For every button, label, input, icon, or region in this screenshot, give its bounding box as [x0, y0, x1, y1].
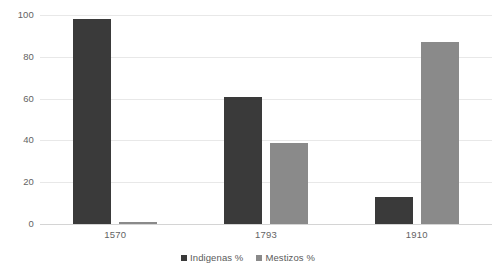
bar	[270, 143, 308, 225]
y-tick-label: 60	[0, 94, 34, 104]
legend-item[interactable]: Indigenas %	[181, 252, 243, 263]
x-tick-label: 1570	[85, 229, 145, 241]
axis-baseline	[40, 224, 492, 225]
y-tick-label: 80	[0, 52, 34, 62]
bar	[73, 19, 111, 224]
x-tick-label: 1910	[387, 229, 447, 241]
legend-swatch-icon	[256, 255, 262, 261]
plot-area	[40, 15, 492, 224]
bar	[421, 42, 459, 224]
bar-group	[73, 15, 157, 224]
bar-group	[224, 15, 308, 224]
legend-label: Indigenas %	[190, 252, 243, 263]
y-tick-label: 100	[0, 10, 34, 20]
y-tick-label: 40	[0, 135, 34, 145]
bar	[119, 222, 157, 224]
bar-group	[375, 15, 459, 224]
bar-chart: 020406080100 157017931910 Indigenas %Mes…	[0, 0, 496, 272]
chart-legend: Indigenas %Mestizos %	[0, 252, 496, 263]
y-tick-label: 0	[0, 219, 34, 229]
y-tick-label: 20	[0, 177, 34, 187]
legend-item[interactable]: Mestizos %	[256, 252, 315, 263]
legend-label: Mestizos %	[265, 252, 315, 263]
y-axis: 020406080100	[0, 0, 34, 272]
x-tick-label: 1793	[236, 229, 296, 241]
bar	[375, 197, 413, 224]
bar	[224, 97, 262, 224]
legend-swatch-icon	[181, 255, 187, 261]
x-axis: 157017931910	[40, 229, 492, 243]
